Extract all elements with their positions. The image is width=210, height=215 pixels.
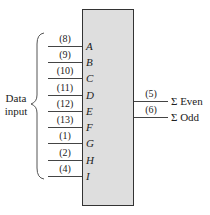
output-wire: [134, 117, 168, 118]
pin-number: (1): [50, 131, 80, 141]
output-wire: [134, 101, 168, 102]
output-label: Σ Odd: [171, 112, 199, 123]
pin-number: (11): [50, 83, 80, 93]
input-wire: [48, 127, 82, 128]
input-wire: [48, 46, 82, 47]
data-input-label-line1: Data: [0, 92, 32, 105]
input-wire: [48, 160, 82, 161]
input-wire: [48, 111, 82, 112]
pin-label: C: [86, 73, 93, 84]
input-wire: [48, 78, 82, 79]
pin-label: E: [86, 106, 93, 117]
data-input-label: Data input: [0, 92, 32, 118]
data-input-label-line2: input: [0, 105, 32, 118]
pin-number: (2): [50, 148, 80, 158]
output-label: Σ Even: [171, 96, 203, 107]
pin-label: H: [86, 155, 94, 166]
pin-label: I: [86, 171, 90, 182]
pin-label: A: [86, 41, 93, 52]
pin-number: (4): [50, 164, 80, 174]
input-wire: [48, 143, 82, 144]
input-wire: [48, 95, 82, 96]
pin-number: (6): [136, 105, 166, 115]
pin-label: D: [86, 90, 94, 101]
input-wire: [48, 62, 82, 63]
pin-number: (8): [50, 34, 80, 44]
pin-label: B: [86, 57, 93, 68]
pin-label: G: [86, 138, 94, 149]
pin-number: (13): [50, 115, 80, 125]
input-wire: [48, 176, 82, 177]
pin-number: (5): [136, 89, 166, 99]
pin-label: F: [86, 122, 93, 133]
pin-number: (10): [50, 66, 80, 76]
pin-number: (12): [50, 99, 80, 109]
pin-number: (9): [50, 50, 80, 60]
